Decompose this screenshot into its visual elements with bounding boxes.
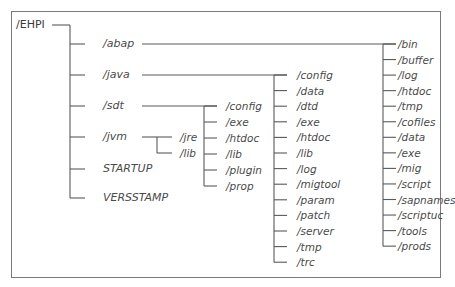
folder-sdt-prop: /prop — [226, 180, 254, 192]
folder-abap-mig: /mig — [398, 162, 421, 174]
folder-java-exe: /exe — [297, 116, 320, 128]
folder-java-config: /config — [297, 69, 333, 81]
folder-java-lib: /lib — [297, 147, 313, 159]
folder-sdt-plugin: /plugin — [226, 164, 262, 176]
folder-versstamp: VERSSTAMP — [103, 192, 168, 204]
folder-sdt-lib: /lib — [226, 148, 242, 160]
folder-java-htdoc: /htdoc — [297, 131, 330, 143]
folder-abap-scriptuc: /scriptuc — [398, 209, 443, 221]
folder-java-patch: /patch — [297, 209, 330, 221]
folder-abap: /abap — [103, 38, 134, 50]
folder-sdt: /sdt — [103, 100, 124, 112]
folder-abap-script: /script — [398, 178, 431, 190]
folder-java-trc: /trc — [297, 256, 315, 268]
folder-abap-log: /log — [398, 69, 418, 81]
folder-sdt-exe: /exe — [226, 116, 249, 128]
folder-abap-tmp: /tmp — [398, 100, 423, 112]
folder-abap-prods: /prods — [398, 240, 431, 252]
folder-java-param: /param — [297, 194, 335, 206]
folder-abap-buffer: /buffer — [398, 54, 433, 66]
folder-abap-sapnames: /sapnames — [398, 194, 455, 206]
folder-java-data: /data — [297, 85, 324, 97]
folder-startup: STARTUP — [103, 163, 152, 175]
folder-jvm-lib: /lib — [180, 147, 196, 159]
folder-abap-tools: /tools — [398, 225, 427, 237]
folder-java: /java — [103, 69, 130, 81]
folder-sdt-config: /config — [226, 100, 262, 112]
folder-abap-cofiles: /cofiles — [398, 116, 435, 128]
folder-jvm-jre: /jre — [180, 131, 197, 143]
folder-java-server: /server — [297, 225, 334, 237]
folder-java-dtd: /dtd — [297, 100, 318, 112]
folder-abap-bin: /bin — [398, 38, 418, 50]
folder-abap-data: /data — [398, 131, 425, 143]
folder-java-tmp: /tmp — [297, 241, 322, 253]
folder-sdt-htdoc: /htdoc — [226, 132, 259, 144]
folder-java-migtool: /migtool — [297, 178, 340, 190]
folder-abap-exe: /exe — [398, 147, 421, 159]
folder-jvm: /jvm — [103, 131, 127, 143]
folder-root-ehpi: /EHPI — [16, 19, 45, 31]
folder-java-log: /log — [297, 163, 317, 175]
folder-abap-htdoc: /htdoc — [398, 85, 431, 97]
